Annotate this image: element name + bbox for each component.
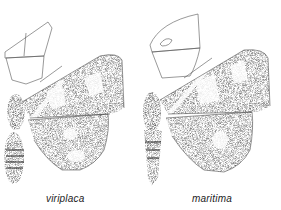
wing-venation-outline <box>150 14 212 78</box>
wing-venation-outline <box>5 22 62 84</box>
caption-viriplaca: viriplaca <box>46 193 84 204</box>
moth-drawing-maritima <box>140 0 281 190</box>
specimen-maritima: maritima <box>140 0 281 210</box>
caption-maritima: maritima <box>192 193 232 204</box>
moth-drawing-viriplaca <box>0 0 140 190</box>
illustration-plate: viriplaca <box>0 0 281 210</box>
specimen-viriplaca: viriplaca <box>0 0 140 210</box>
